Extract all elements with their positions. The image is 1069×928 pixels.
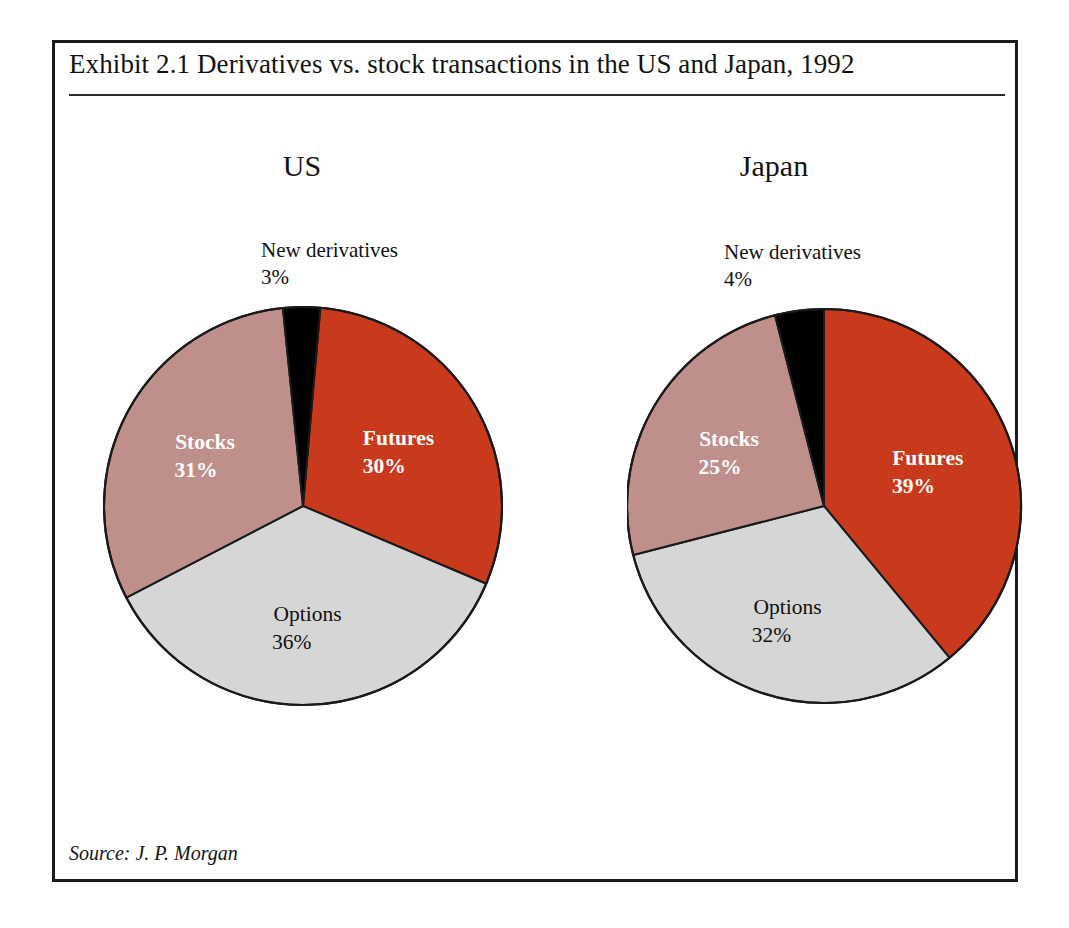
pie-wrap-japan: Futures39%Options32%Stocks25% — [535, 306, 1005, 726]
callout-label-japan: New derivatives — [724, 239, 861, 266]
pie-label-name: Futures — [892, 446, 963, 470]
callout-value-us: 3% — [261, 264, 398, 291]
pie-label-name: Stocks — [699, 427, 759, 451]
chart-panel-japan: Japan New derivatives 4% Futures39%Optio… — [535, 101, 1005, 801]
pie-chart-japan: Futures39%Options32%Stocks25% — [627, 306, 1023, 706]
pie-label-name: Options — [274, 602, 342, 626]
callout-label-us: New derivatives — [261, 237, 398, 264]
callout-new-derivatives-us: New derivatives 3% — [261, 237, 398, 291]
pie-label-value: 39% — [892, 474, 935, 498]
pie-chart-us: Futures30%Options36%Stocks31% — [103, 306, 503, 708]
chart-panel-us: US New derivatives 3% Futures30%Options3… — [65, 101, 535, 801]
pie-label-value: 31% — [174, 458, 217, 482]
pie-label-name: Options — [753, 595, 821, 619]
callout-new-derivatives-japan: New derivatives 4% — [724, 239, 861, 293]
pie-label-name: Stocks — [175, 430, 235, 454]
chart-title-japan: Japan — [535, 149, 1009, 183]
pie-label-value: 30% — [363, 454, 406, 478]
exhibit-frame: Exhibit 2.1 Derivatives vs. stock transa… — [52, 40, 1018, 882]
pie-label-name: Futures — [363, 426, 434, 450]
pie-label-value: 25% — [698, 455, 741, 479]
title-divider — [69, 94, 1005, 96]
title-row: Exhibit 2.1 Derivatives vs. stock transa… — [55, 43, 1015, 95]
charts-area: US New derivatives 3% Futures30%Options3… — [55, 101, 1015, 801]
pie-label-value: 36% — [272, 630, 312, 654]
callout-value-japan: 4% — [724, 266, 861, 293]
page-title: Exhibit 2.1 Derivatives vs. stock transa… — [69, 49, 855, 80]
chart-title-us: US — [65, 149, 537, 183]
source-note: Source: J. P. Morgan — [69, 842, 238, 865]
pie-label-value: 32% — [752, 623, 792, 647]
pie-wrap-us: Futures30%Options36%Stocks31% — [65, 306, 535, 726]
